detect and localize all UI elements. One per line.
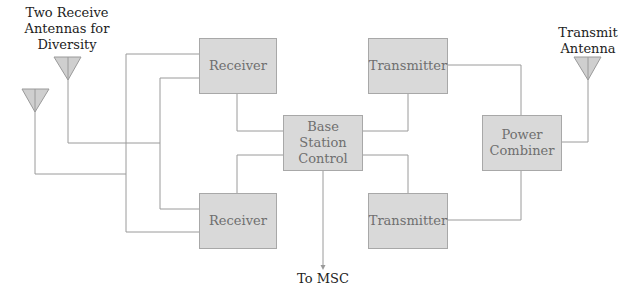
receiver-bottom-block: Receiver bbox=[199, 193, 277, 249]
transmit-antenna-label: Transmit Antenna bbox=[548, 25, 627, 57]
transmitter-top-block: Transmitter bbox=[368, 38, 448, 94]
arrowhead-icon bbox=[321, 265, 326, 270]
receive-antennas-label: Two Receive Antennas for Diversity bbox=[12, 5, 122, 53]
to-msc-label: To MSC bbox=[283, 271, 363, 287]
receiver-top-block: Receiver bbox=[199, 38, 277, 94]
transmitter-bottom-block: Transmitter bbox=[368, 193, 448, 249]
base-station-control-block: Base Station Control bbox=[283, 115, 363, 171]
power-combiner-block: Power Combiner bbox=[482, 115, 562, 171]
